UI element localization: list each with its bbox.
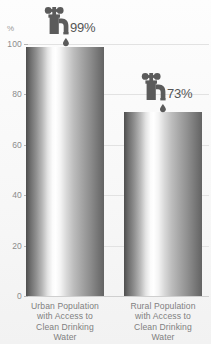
faucet-icon: [42, 6, 72, 48]
category-label-urban-line-2: with Access to: [18, 311, 112, 321]
y-tick-label-20: 20: [0, 241, 22, 251]
y-tick-label-100: 100: [0, 39, 22, 49]
plot-area: % 100 80 60 40 20 0: [0, 0, 211, 344]
category-label-rural-line-1: Rural Population: [116, 301, 210, 311]
tick-mark-100: [24, 44, 28, 45]
y-tick-label-60: 60: [0, 140, 22, 150]
y-axis-unit-label: %: [7, 24, 14, 33]
value-label-urban: 99%: [70, 20, 95, 35]
bar-urban: [26, 47, 104, 296]
category-label-rural-line-2: with Access to: [116, 311, 210, 321]
bar-rural: [124, 112, 202, 296]
category-label-rural-line-3: Clean Drinking: [116, 322, 210, 332]
category-label-rural: Rural Population with Access to Clean Dr…: [116, 301, 210, 342]
y-tick-label-0: 0: [0, 291, 22, 301]
y-tick-label-80: 80: [0, 89, 22, 99]
value-label-rural: 73%: [167, 86, 192, 101]
category-label-urban-line-4: Water: [18, 332, 112, 342]
category-label-urban: Urban Population with Access to Clean Dr…: [18, 301, 112, 342]
category-label-rural-line-4: Water: [116, 332, 210, 342]
category-label-urban-line-1: Urban Population: [18, 301, 112, 311]
category-label-urban-line-3: Clean Drinking: [18, 322, 112, 332]
faucet-icon: [139, 72, 169, 114]
tick-mark-0: [24, 296, 28, 297]
y-tick-label-40: 40: [0, 190, 22, 200]
bar-chart: % 100 80 60 40 20 0: [0, 0, 211, 344]
gridline-0: [24, 296, 209, 297]
